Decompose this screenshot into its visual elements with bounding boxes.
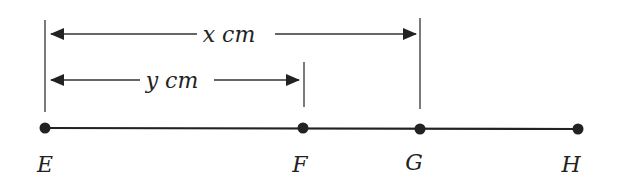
segment-eh: [45, 128, 578, 129]
dimension-label-x: x cm: [203, 22, 256, 47]
dimension-label-y: y cm: [145, 68, 199, 93]
dimension-eg: x cm: [51, 22, 416, 47]
point-label-h: H: [560, 152, 581, 177]
point-g: [415, 124, 426, 135]
diagram-canvas: x cm y cm E F G H: [0, 0, 621, 181]
dimension-ef: y cm: [51, 68, 299, 93]
point-f: [298, 123, 309, 134]
point-label-e: E: [36, 152, 53, 177]
point-e: [40, 123, 51, 134]
point-label-f: F: [291, 152, 308, 177]
point-label-g: G: [405, 150, 423, 175]
point-h: [573, 124, 584, 135]
